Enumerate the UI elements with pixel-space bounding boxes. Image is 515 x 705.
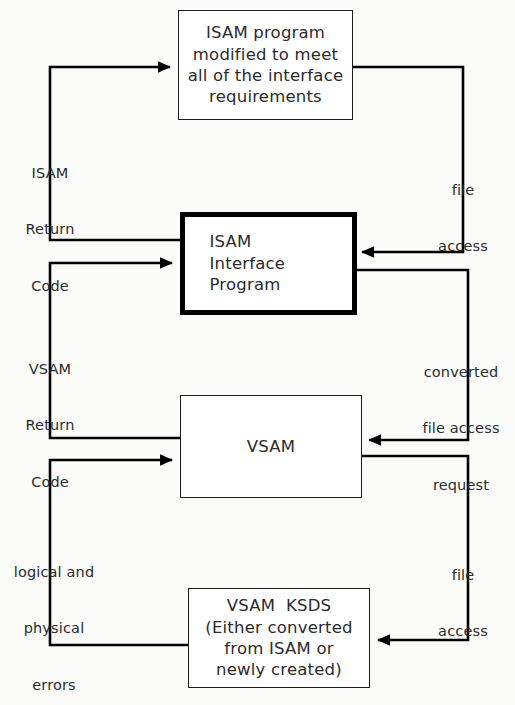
edge-label-converted-line-3: request [412,476,510,495]
node-vsam-ksds-line-4: newly created) [216,659,342,680]
edge-label-isam-return-code: ISAM Return Code [8,126,92,333]
edge-label-vsam-return-code-line-2: Return [8,416,92,435]
edge-label-errors-line-2: physical [2,619,106,638]
node-vsam-ksds[interactable]: VSAM KSDS (Either converted from ISAM or… [188,588,370,688]
edge-label-converted-file-access-request: converted file access request [412,325,510,532]
node-isam-program-line-3: all of the interface [188,65,344,86]
edge-label-file-access-top: file access [419,143,507,294]
node-vsam-ksds-line-1: VSAM KSDS [227,595,332,616]
edge-label-converted-line-1: converted [412,363,510,382]
edge-label-isam-return-code-line-2: Return [8,220,92,239]
node-vsam[interactable]: VSAM [180,395,362,498]
edge-label-vsam-return-code-line-3: Code [8,473,92,492]
edge-label-file-access-bottom-line-2: access [419,622,507,641]
node-vsam-label: VSAM [247,436,295,457]
edge-label-vsam-return-code-line-1: VSAM [8,360,92,379]
node-isam-interface-program[interactable]: ISAM Interface Program [180,212,357,315]
node-isam-interface-line-2: Interface [210,253,328,274]
edge-label-converted-line-2: file access [412,419,510,438]
node-vsam-ksds-line-2: (Either converted [205,617,352,638]
flow-diagram: ISAM program modified to meet all of the… [0,0,515,705]
edge-label-logical-and-physical-errors: logical and physical errors [2,525,106,705]
edge-label-file-access-top-line-2: access [419,237,507,256]
edge-label-isam-return-code-line-3: Code [8,277,92,296]
edge-label-errors-line-3: errors [2,676,106,695]
edge-label-file-access-bottom: file access [419,528,507,679]
edge-label-isam-return-code-line-1: ISAM [8,164,92,183]
edge-label-file-access-bottom-line-1: file [419,566,507,585]
node-isam-program[interactable]: ISAM program modified to meet all of the… [178,10,353,120]
node-isam-program-line-2: modified to meet [193,44,338,65]
edge-label-file-access-top-line-1: file [419,181,507,200]
node-vsam-ksds-line-3: from ISAM or [224,638,333,659]
node-isam-program-line-1: ISAM program [206,22,325,43]
node-isam-interface-line-3: Program [210,274,328,295]
node-isam-interface-line-1: ISAM [210,231,328,252]
edge-label-vsam-return-code: VSAM Return Code [8,322,92,529]
node-isam-program-line-4: requirements [209,86,322,107]
edge-label-errors-line-1: logical and [2,563,106,582]
